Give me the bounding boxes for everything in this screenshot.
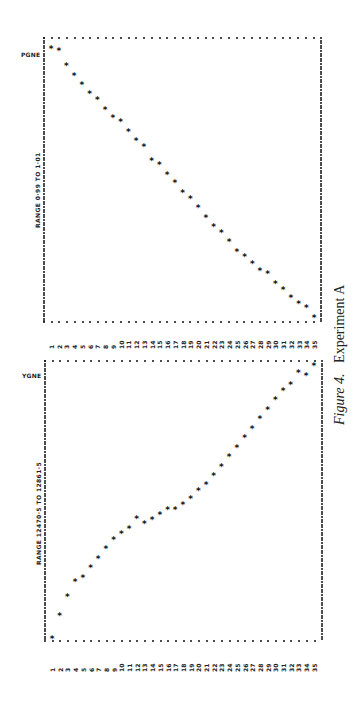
frame-dot — [43, 289, 45, 291]
frame-dot — [190, 360, 192, 362]
frame-dot — [320, 237, 322, 239]
frame-dot — [321, 508, 323, 510]
frame-dot — [320, 167, 322, 169]
figure-caption: Figure 4. Experiment A — [332, 285, 348, 425]
frame-dot — [44, 625, 46, 627]
frame-dot — [228, 37, 230, 39]
frame-dot — [320, 320, 322, 322]
frame-dot — [182, 37, 184, 39]
index-tick-label: 14 — [149, 341, 156, 349]
frame-dot — [44, 495, 46, 497]
frame-dot — [320, 115, 322, 117]
frame-dot — [320, 133, 322, 135]
index-tick-label: 27 — [249, 341, 256, 349]
frame-dot — [43, 302, 45, 304]
frame-dot — [320, 94, 322, 96]
frame-dot — [43, 258, 45, 260]
frame-dot — [44, 560, 46, 562]
frame-dot — [105, 321, 107, 323]
frame-dot — [320, 284, 322, 286]
frame-dot — [43, 102, 45, 104]
index-tick-label: 9 — [111, 668, 118, 672]
frame-dot — [321, 404, 323, 406]
data-point: * — [55, 47, 63, 55]
frame-dot — [43, 37, 45, 39]
frame-dot — [321, 594, 323, 596]
frame-dot — [89, 37, 91, 39]
frame-dot — [321, 503, 323, 505]
frame-dot — [43, 271, 45, 273]
frame-dot — [44, 404, 46, 406]
index-tick-label: 6 — [87, 345, 94, 349]
frame-dot — [320, 250, 322, 252]
data-point: * — [125, 525, 133, 533]
frame-dot — [314, 640, 316, 642]
data-point: * — [194, 204, 202, 212]
data-point: * — [48, 635, 56, 643]
frame-dot — [51, 321, 53, 323]
frame-dot — [320, 198, 322, 200]
frame-dot — [44, 516, 46, 518]
frame-dot — [143, 321, 145, 323]
frame-dot — [174, 321, 176, 323]
frame-dot — [321, 625, 323, 627]
frame-dot — [206, 640, 208, 642]
data-point: * — [279, 286, 287, 294]
index-tick-label: 5 — [79, 345, 86, 349]
frame-dot — [44, 586, 46, 588]
index-tick-label: 3 — [63, 345, 70, 349]
frame-dot — [82, 321, 84, 323]
frame-dot — [160, 360, 162, 362]
frame-dot — [83, 640, 85, 642]
index-tick-label: 32 — [288, 664, 295, 672]
frame-dot — [182, 321, 184, 323]
index-tick-label: 30 — [272, 664, 279, 672]
frame-dot — [321, 599, 323, 601]
frame-dot — [43, 232, 45, 234]
data-point: * — [264, 406, 272, 414]
index-tick-label: 23 — [218, 664, 225, 672]
frame-dot — [43, 297, 45, 299]
frame-dot — [43, 133, 45, 135]
frame-dot — [167, 360, 169, 362]
frame-dot — [44, 594, 46, 596]
frame-dot — [44, 417, 46, 419]
frame-dot — [43, 193, 45, 195]
frame-dot — [44, 430, 46, 432]
frame-dot — [52, 360, 54, 362]
frame-dot — [59, 640, 61, 642]
frame-dot — [43, 180, 45, 182]
frame-dot — [43, 146, 45, 148]
frame-dot — [129, 360, 131, 362]
frame-dot — [90, 640, 92, 642]
frame-dot — [44, 365, 46, 367]
index-tick-label: 19 — [187, 341, 194, 349]
index-tick-label: 18 — [180, 341, 187, 349]
index-tick-label: 35 — [311, 341, 318, 349]
data-point: * — [310, 314, 318, 322]
data-point: * — [78, 81, 86, 89]
frame-dot — [274, 37, 276, 39]
frame-dot — [43, 154, 45, 156]
frame-dot — [243, 321, 245, 323]
index-tick-label: 32 — [288, 341, 295, 349]
index-tick-label: 10 — [118, 664, 125, 672]
frame-dot — [44, 640, 46, 642]
frame-dot — [43, 68, 45, 70]
frame-dot — [44, 464, 46, 466]
frame-dot — [43, 198, 45, 200]
frame-dot — [205, 321, 207, 323]
frame-dot — [236, 37, 238, 39]
frame-dot — [321, 638, 323, 640]
frame-dot — [106, 360, 108, 362]
frame-dot — [260, 640, 262, 642]
frame-dot — [113, 360, 115, 362]
frame-dot — [282, 321, 284, 323]
frame-dot — [321, 547, 323, 549]
frame-dot — [298, 360, 300, 362]
index-tick-label: 26 — [242, 664, 249, 672]
frame-dot — [44, 612, 46, 614]
frame-dot — [43, 276, 45, 278]
frame-dot — [159, 321, 161, 323]
frame-dot — [44, 425, 46, 427]
